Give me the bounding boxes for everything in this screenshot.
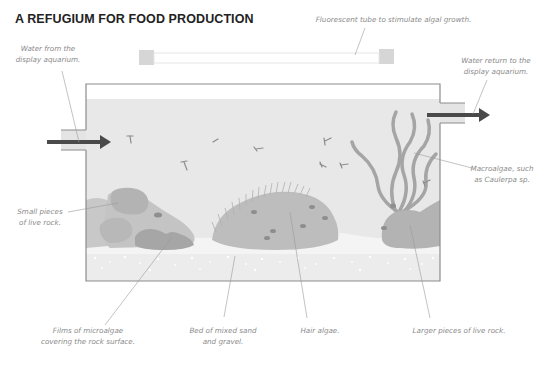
sand-label: Bed of mixed sand and gravel.: [178, 325, 268, 347]
outlet-label: Water return to the display aquarium.: [458, 55, 534, 77]
inlet-label: Water from the display aquarium.: [14, 43, 82, 65]
large-rock-label: Larger pieces of live rock.: [404, 325, 514, 336]
tube-label: Fluorescent tube to stimulate algal grow…: [306, 14, 481, 25]
fluorescent-tube: [139, 49, 394, 65]
hair-algae-label: Hair algae.: [290, 325, 350, 336]
small-rock-label: Small pieces of live rock.: [12, 206, 68, 228]
macroalgae-label: Macroalgae, such as Caulerpa sp.: [470, 163, 534, 185]
microalgae-label: Films of microalgae covering the rock su…: [38, 325, 138, 347]
